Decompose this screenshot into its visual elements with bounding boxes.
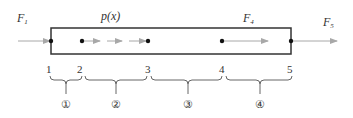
node-number-3: 3	[145, 63, 151, 75]
node-number-4: 4	[219, 63, 225, 75]
node-4	[220, 39, 224, 43]
node-2	[80, 39, 84, 43]
node-number-5: 5	[287, 63, 293, 75]
label-f4: F4	[242, 11, 254, 26]
element-number-4: ④	[255, 98, 265, 110]
label-f5: F5	[322, 15, 334, 30]
node-number-1: 1	[46, 63, 52, 75]
bar-element-diagram: F1 p(x) F4 F5 1 2 3 4 5 ① ② ③ ④	[0, 0, 353, 118]
node-5	[289, 39, 293, 43]
node-1	[49, 39, 53, 43]
node-number-2: 2	[77, 63, 83, 75]
element-braces	[50, 76, 292, 94]
brace-1	[50, 76, 82, 84]
node-3	[146, 39, 150, 43]
brace-4	[226, 76, 292, 84]
element-number-1: ①	[61, 98, 71, 110]
label-f1: F1	[16, 11, 28, 26]
brace-2	[85, 76, 147, 84]
element-number-3: ③	[183, 98, 193, 110]
element-number-2: ②	[111, 98, 121, 110]
label-px: p(x)	[100, 9, 120, 23]
brace-3	[151, 76, 222, 84]
